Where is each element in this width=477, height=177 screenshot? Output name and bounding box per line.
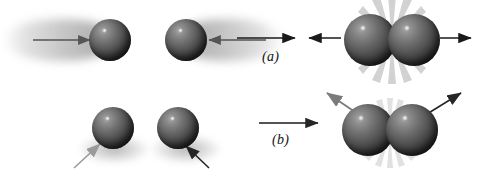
sphere-b-out-right [386, 104, 438, 156]
collision-row-b: (b) [0, 90, 477, 177]
collision-figure: (a) [0, 0, 477, 177]
arrow-b-in-right [186, 146, 209, 168]
sphere-b-right [157, 107, 199, 149]
collision-row-a: (a) [0, 0, 477, 90]
row-a-label: (a) [262, 49, 279, 65]
sphere-a-out-right [388, 14, 440, 66]
arrow-b-in-left [74, 144, 100, 168]
sphere-a-left [89, 19, 131, 61]
sphere-a-right [165, 19, 207, 61]
sphere-b-left [92, 107, 134, 149]
arrow-b-out-right [427, 93, 461, 114]
row-b-label: (b) [272, 132, 289, 148]
